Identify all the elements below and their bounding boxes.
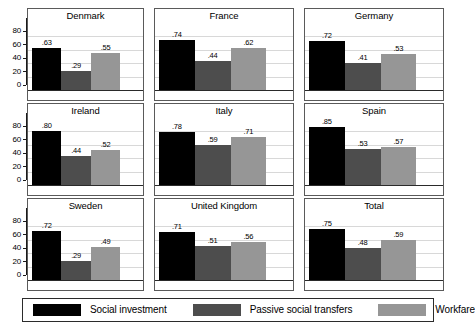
x-axis-baseline [155, 90, 293, 91]
bar-slot: .56 [231, 212, 267, 281]
y-tick-mark [23, 221, 26, 222]
plot-area: United Kingdom.71.51.56 [154, 198, 294, 291]
bar-slot: .41 [345, 22, 381, 91]
y-axis-ticks: 020406080 [300, 18, 303, 85]
y-tick-mark [23, 31, 26, 32]
x-axis-baseline [155, 280, 293, 281]
y-axis-ticks: 020406080 [150, 18, 153, 85]
y-tick-label: 20 [13, 163, 24, 171]
bar-group: .72.29.49 [28, 212, 143, 281]
x-axis-baseline [155, 185, 293, 186]
bar-0: .74 [159, 40, 195, 91]
bar-value-label: .74 [172, 31, 182, 39]
bar-1: .44 [195, 61, 231, 91]
y-tick-mark [23, 85, 26, 86]
bar-value-label: .59 [393, 231, 403, 239]
bar-slot: .85 [309, 117, 345, 186]
y-tick-label: 60 [13, 231, 24, 239]
panel-denmark: 020406080Denmark.63.29.55 [0, 8, 144, 101]
plot-area: Total.75.48.59 [304, 198, 444, 291]
y-tick: 80 [13, 27, 27, 35]
bar-0: .78 [159, 132, 195, 186]
bar-value-label: .59 [208, 136, 218, 144]
bar-slot: .51 [195, 212, 231, 281]
plot-area: Ireland.80.44.52 [27, 103, 144, 196]
bar-0: .63 [32, 48, 61, 91]
bar-value-label: .57 [393, 138, 403, 146]
bar-slot: .71 [159, 212, 195, 281]
plot-area: Denmark.63.29.55 [27, 8, 144, 101]
bar-2: .56 [231, 242, 267, 281]
panel-spain: 020406080Spain.85.53.57 [300, 103, 444, 196]
bar-2: .62 [231, 48, 267, 91]
y-tick-label: 60 [13, 136, 24, 144]
bar-value-label: .78 [172, 123, 182, 131]
bar-slot: .29 [61, 212, 90, 281]
plot-area: Spain.85.53.57 [304, 103, 444, 196]
bar-1: .59 [195, 145, 231, 186]
x-axis-baseline [28, 280, 143, 281]
bar-value-label: .49 [101, 238, 111, 246]
panel-title: Ireland [28, 105, 143, 116]
y-axis: 020406080 [0, 198, 27, 291]
y-tick-label: 40 [13, 149, 24, 157]
y-tick: 40 [13, 244, 27, 252]
bar-0: .71 [159, 232, 195, 281]
bar-value-label: .85 [322, 118, 332, 126]
bar-2: .59 [381, 240, 417, 281]
bar-value-label: .44 [71, 147, 81, 155]
bar-1: .48 [345, 248, 381, 281]
bar-value-label: .53 [358, 140, 368, 148]
chart-legend: Social investmentPassive social transfer… [22, 298, 434, 322]
y-tick: 0 [17, 271, 26, 279]
bar-value-label: .52 [101, 141, 111, 149]
y-axis-ticks: 020406080 [0, 208, 26, 275]
panel-title: Germany [305, 10, 443, 21]
bar-slot: .52 [91, 117, 120, 186]
bar-slot: .44 [195, 22, 231, 91]
panel-total: 020406080Total.75.48.59 [300, 198, 444, 291]
bar-1: .51 [195, 246, 231, 281]
bar-2: .49 [91, 247, 120, 281]
legend-entry-1: Passive social transfers [193, 304, 353, 316]
y-tick-mark [23, 126, 26, 127]
panel-germany: 020406080Germany.72.41.53 [300, 8, 444, 101]
bar-slot: .48 [345, 212, 381, 281]
legend-label: Social investment [90, 304, 167, 316]
y-axis-ticks: 020406080 [0, 18, 26, 85]
bar-2: .71 [231, 137, 267, 186]
panel-title: Sweden [28, 200, 143, 211]
y-tick-label: 80 [13, 27, 24, 35]
bar-0: .85 [309, 127, 345, 186]
panel-italy: 020406080Italy.78.59.71 [150, 103, 294, 196]
legend-entry-2: Workfare [378, 304, 475, 316]
y-tick-label: 20 [13, 68, 24, 76]
bar-value-label: .72 [322, 32, 332, 40]
y-tick-mark [23, 275, 26, 276]
bar-value-label: .51 [208, 237, 218, 245]
y-tick-mark [23, 180, 26, 181]
y-tick: 40 [13, 54, 27, 62]
y-tick: 20 [13, 68, 27, 76]
y-tick-mark [23, 166, 26, 167]
x-axis-baseline [305, 90, 443, 91]
panel-title: Total [305, 200, 443, 211]
bar-1: .41 [345, 63, 381, 91]
plot-area: Germany.72.41.53 [304, 8, 444, 101]
panel-grid: 020406080Denmark.63.29.55020406080France… [0, 8, 444, 291]
bar-group: .85.53.57 [305, 117, 443, 186]
bar-slot: .75 [309, 212, 345, 281]
bar-group: .71.51.56 [155, 212, 293, 281]
bar-slot: .55 [91, 22, 120, 91]
y-tick-mark [23, 71, 26, 72]
bar-value-label: .63 [42, 39, 52, 47]
legend-swatch [33, 304, 81, 316]
bar-slot: .72 [32, 212, 61, 281]
bar-2: .52 [91, 150, 120, 186]
y-tick: 20 [13, 163, 27, 171]
bar-0: .72 [32, 231, 61, 281]
plot-area: Italy.78.59.71 [154, 103, 294, 196]
panel-title: France [155, 10, 293, 21]
y-axis-ticks: 020406080 [300, 113, 303, 180]
bar-value-label: .56 [243, 233, 253, 241]
